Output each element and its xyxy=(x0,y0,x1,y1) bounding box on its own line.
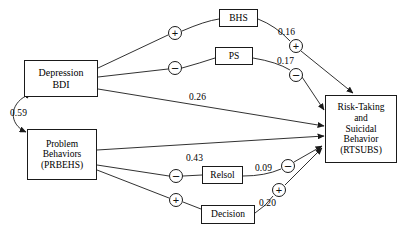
sign-plus-bhs-rtsubs: + xyxy=(289,39,303,53)
coefficient-bhs-rtsubs: 0.16 xyxy=(278,27,295,37)
node-bhs[interactable]: BHS xyxy=(219,9,258,27)
node-decision-label: Decision xyxy=(202,209,254,220)
node-problem-behaviors[interactable]: Problem Behaviors (PRBEHS) xyxy=(27,129,97,180)
sign-minus-relsol-rtsubs: − xyxy=(281,159,295,173)
sign-minus-bdi-ps: − xyxy=(168,61,182,75)
node-ps-label: PS xyxy=(216,51,252,62)
coefficient-bdi-rtsubs: 0.26 xyxy=(189,92,206,102)
node-ps[interactable]: PS xyxy=(215,47,253,65)
edge-bdi-to-bhs-cont xyxy=(182,19,219,31)
edge-relsol-to-rtsubs-cont xyxy=(294,146,322,162)
edge-bdi-to-ps-cont xyxy=(182,58,215,68)
coefficient-relsol-rtsubs: 0.09 xyxy=(255,163,272,173)
node-depression-bdi-label: Depression BDI xyxy=(25,67,97,89)
node-rtsubs-label: Risk-Taking and Suicidal Behavior (RTSUB… xyxy=(326,102,396,155)
node-relsol-label: Relsol xyxy=(203,170,242,181)
edge-prbehs-to-rtsubs xyxy=(97,136,324,150)
sign-minus-prbehs-relsol: − xyxy=(169,169,183,183)
node-decision[interactable]: Decision xyxy=(201,205,255,224)
node-bhs-label: BHS xyxy=(220,13,257,24)
coefficient-decision-rtsubs: 0.20 xyxy=(259,198,276,208)
edge-prbehs-to-relsol-cont xyxy=(183,175,202,176)
node-relsol[interactable]: Relsol xyxy=(202,166,243,184)
coefficient-bdi-prbehs-correlation: 0.59 xyxy=(10,108,27,118)
coefficient-prbehs-rtsubs: 0.43 xyxy=(186,153,203,163)
edge-bdi-to-bhs xyxy=(98,35,168,68)
edge-bdi-to-ps xyxy=(98,69,168,77)
sign-plus-prbehs-decision: + xyxy=(169,193,183,207)
node-depression-bdi[interactable]: Depression BDI xyxy=(24,60,98,97)
edge-bdi-to-rtsubs xyxy=(98,89,324,126)
path-diagram: Depression BDI Problem Behaviors (PRBEHS… xyxy=(0,0,400,235)
sign-plus-bdi-bhs: + xyxy=(168,26,182,40)
sign-plus-decision-rtsubs: + xyxy=(272,183,286,197)
edge-ps-to-rtsubs-cont xyxy=(302,77,324,110)
sign-minus-ps-rtsubs: − xyxy=(289,68,303,82)
coefficient-ps-rtsubs: 0.17 xyxy=(277,56,294,66)
node-rtsubs[interactable]: Risk-Taking and Suicidal Behavior (RTSUB… xyxy=(325,95,397,163)
node-problem-behaviors-label: Problem Behaviors (PRBEHS) xyxy=(28,139,96,171)
edge-prbehs-to-decision-cont xyxy=(183,202,201,209)
